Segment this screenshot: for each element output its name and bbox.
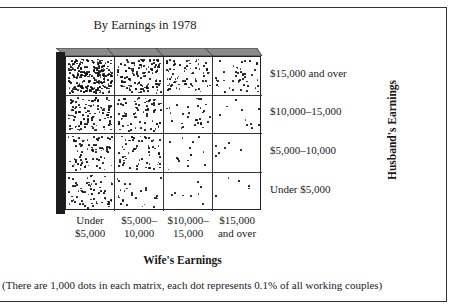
dot bbox=[152, 120, 154, 122]
grid-top-face bbox=[56, 48, 266, 56]
dot bbox=[140, 91, 142, 93]
matrix-cell bbox=[115, 57, 164, 96]
dot bbox=[108, 146, 110, 148]
dot bbox=[84, 126, 86, 128]
dot bbox=[257, 91, 259, 93]
dot bbox=[75, 145, 77, 147]
dot bbox=[152, 146, 154, 148]
dot bbox=[204, 164, 206, 166]
dot bbox=[145, 98, 147, 100]
dot bbox=[136, 147, 138, 149]
dot bbox=[122, 156, 124, 158]
grid-side-face bbox=[56, 52, 65, 214]
dot bbox=[187, 116, 189, 118]
dot bbox=[228, 142, 230, 144]
matrix-cell bbox=[115, 173, 164, 212]
dot bbox=[74, 116, 76, 118]
dot bbox=[246, 81, 248, 83]
col-label-line1: $10,000– bbox=[160, 214, 216, 227]
chart-title: By Earnings in 1978 bbox=[70, 18, 220, 33]
dot bbox=[107, 61, 109, 63]
dot bbox=[91, 175, 93, 177]
dot bbox=[186, 60, 188, 62]
dot bbox=[153, 104, 155, 106]
dot bbox=[132, 139, 134, 141]
dot bbox=[69, 203, 71, 205]
dot bbox=[75, 182, 77, 184]
dot bbox=[100, 81, 102, 83]
dot bbox=[85, 158, 87, 160]
dot bbox=[151, 140, 153, 142]
dot bbox=[219, 114, 221, 116]
dot bbox=[131, 91, 133, 93]
dot bbox=[79, 156, 81, 158]
dot bbox=[235, 71, 237, 73]
dot bbox=[154, 109, 156, 111]
dot bbox=[100, 156, 102, 158]
dot bbox=[99, 111, 101, 113]
dot bbox=[91, 193, 93, 195]
dot bbox=[77, 73, 79, 75]
dot bbox=[141, 158, 143, 160]
dot bbox=[88, 100, 90, 102]
dot bbox=[257, 79, 259, 81]
dot bbox=[88, 80, 90, 82]
dot bbox=[98, 67, 100, 69]
dot bbox=[76, 184, 78, 186]
dot bbox=[157, 164, 159, 166]
dot bbox=[111, 136, 113, 138]
dot bbox=[91, 119, 93, 121]
dot bbox=[89, 110, 91, 112]
dot bbox=[238, 180, 240, 182]
dot bbox=[197, 122, 199, 124]
dot bbox=[205, 62, 207, 64]
dot bbox=[148, 137, 150, 139]
dot bbox=[150, 128, 152, 130]
dot bbox=[202, 127, 204, 129]
col-label-line2: and over bbox=[209, 227, 265, 240]
dot bbox=[168, 169, 170, 171]
dot bbox=[258, 108, 260, 110]
dot bbox=[182, 80, 184, 82]
dot bbox=[98, 159, 100, 161]
dot bbox=[117, 103, 119, 105]
dot bbox=[240, 68, 242, 70]
dot bbox=[153, 112, 155, 114]
dot bbox=[95, 149, 97, 151]
dot bbox=[93, 123, 95, 125]
dot bbox=[188, 112, 190, 114]
dot bbox=[110, 105, 112, 107]
dot bbox=[125, 139, 127, 141]
dot bbox=[203, 65, 205, 67]
dot bbox=[110, 116, 112, 118]
dot bbox=[152, 86, 154, 88]
dot bbox=[246, 124, 248, 126]
dot bbox=[202, 112, 204, 114]
dot bbox=[79, 107, 81, 109]
dot bbox=[108, 100, 110, 102]
dot bbox=[93, 136, 95, 138]
dot bbox=[83, 91, 85, 93]
dot bbox=[75, 140, 77, 142]
dot bbox=[126, 204, 128, 206]
dot bbox=[84, 205, 86, 207]
dot bbox=[110, 85, 112, 87]
dot bbox=[185, 83, 187, 85]
dot bbox=[251, 127, 253, 129]
dot bbox=[190, 154, 192, 156]
dot bbox=[135, 88, 137, 90]
dot bbox=[203, 72, 205, 74]
dot bbox=[77, 97, 79, 99]
dot bbox=[81, 71, 83, 73]
dot bbox=[235, 99, 237, 101]
dot bbox=[121, 85, 123, 87]
dot bbox=[240, 89, 242, 91]
x-axis-title: Wife's Earnings bbox=[110, 254, 255, 266]
y-axis-title: Husband's Earnings bbox=[392, 130, 404, 142]
dot bbox=[80, 74, 82, 76]
dot bbox=[218, 152, 220, 154]
dot bbox=[182, 113, 184, 115]
dot bbox=[188, 60, 190, 62]
dot bbox=[77, 163, 79, 165]
dot bbox=[98, 83, 100, 85]
